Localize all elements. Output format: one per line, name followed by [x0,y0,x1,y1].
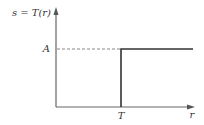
step-function-diagram: s = T(r) A T r [0,0,204,125]
step-function-curve [121,49,193,107]
x-axis-label: r [190,109,196,120]
threshold-t-label: T [118,110,126,121]
y-axis-arrow-icon [54,7,59,15]
y-axis-label: s = T(r) [12,7,51,18]
level-a-label: A [42,43,50,54]
